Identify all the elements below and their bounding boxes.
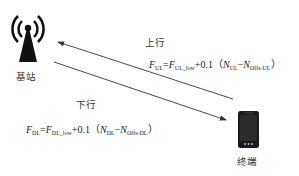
smartphone-icon	[236, 110, 262, 150]
base-station-label: 基站	[16, 69, 36, 83]
downlink-formula: FDL=FDL_low+0.1（NDL−NOffs-DL）	[26, 121, 158, 136]
cell-tower-icon	[8, 10, 48, 65]
base-station: 基站	[8, 10, 48, 85]
downlink-label: 下行	[76, 97, 96, 111]
terminal-label: 终端	[237, 154, 257, 168]
uplink-label: 上行	[145, 35, 165, 49]
uplink-formula: FUL=FUL_low+0.1（NUL−NOffs-UL）	[149, 56, 281, 71]
terminal: 终端	[234, 110, 264, 172]
